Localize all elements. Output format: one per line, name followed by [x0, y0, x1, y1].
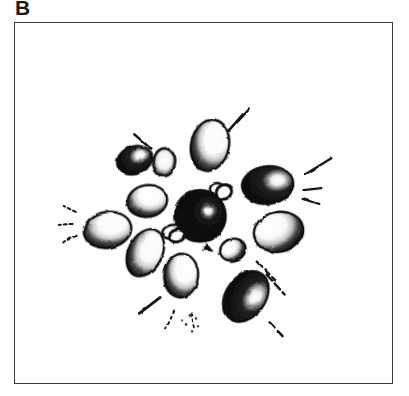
- speckle: [189, 314, 192, 317]
- figure-frame: [14, 22, 393, 384]
- page-title: B: [15, 0, 30, 18]
- figure-panel: B: [0, 0, 409, 396]
- speckle: [195, 317, 197, 319]
- speckle: [191, 330, 193, 332]
- micrograph-illustration: [15, 23, 392, 383]
- speckle: [185, 323, 188, 326]
- ray-mark: [59, 224, 73, 225]
- body-top-small: [152, 148, 176, 177]
- speckle: [181, 319, 183, 321]
- speckle: [197, 325, 199, 327]
